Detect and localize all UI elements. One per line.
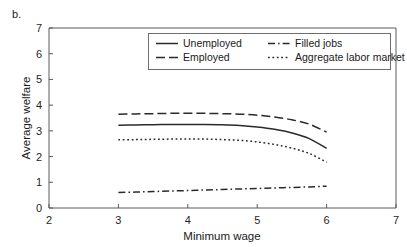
x-axis-ticks: 234567 (46, 204, 399, 226)
series-line-aggregate-labor-market (118, 139, 326, 162)
y-axis-title: Average welfare (20, 77, 32, 160)
y-tick-label: 6 (36, 48, 42, 60)
x-tick-label: 4 (185, 214, 191, 226)
legend-label-unemployed: Unemployed (183, 37, 242, 49)
x-tick-label: 5 (254, 214, 260, 226)
y-tick-label: 3 (36, 125, 42, 137)
chart-canvas: 01234567 234567 Minimum wage Average wel… (0, 0, 407, 247)
y-tick-label: 0 (36, 202, 42, 214)
x-axis-title: Minimum wage (183, 230, 260, 242)
figure-panel: b. 01234567 234567 Minimum wage Average … (0, 0, 407, 247)
x-tick-label: 3 (115, 214, 121, 226)
y-tick-label: 7 (36, 22, 42, 34)
legend-label-aggregate-labor-market: Aggregate labor market (295, 51, 405, 63)
x-tick-label: 2 (46, 214, 52, 226)
y-tick-label: 2 (36, 151, 42, 163)
y-tick-label: 4 (36, 99, 42, 111)
legend-label-employed: Employed (183, 51, 230, 63)
y-tick-label: 1 (36, 176, 42, 188)
series-group (118, 113, 326, 192)
series-line-unemployed (118, 124, 326, 148)
x-tick-label: 6 (324, 214, 330, 226)
x-tick-label: 7 (393, 214, 399, 226)
series-line-employed (118, 113, 326, 132)
chart-legend: UnemployedFilled jobsEmployedAggregate l… (149, 34, 405, 70)
y-axis-ticks: 01234567 (36, 22, 53, 214)
series-line-filled-jobs (118, 186, 326, 192)
legend-label-filled-jobs: Filled jobs (295, 37, 342, 49)
y-tick-label: 5 (36, 73, 42, 85)
